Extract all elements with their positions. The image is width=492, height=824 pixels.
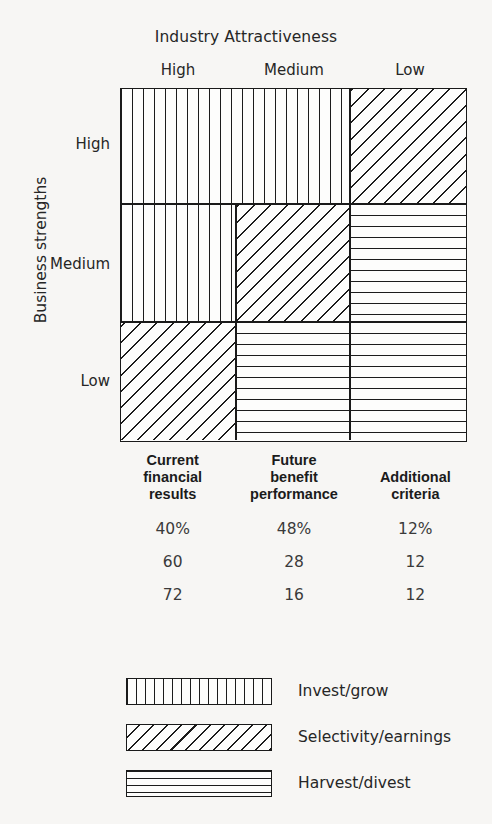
table-cell: 12%: [355, 520, 476, 538]
matrix-rule-col1: [235, 203, 237, 440]
column-header-line3: results: [116, 486, 229, 503]
legend-label: Harvest/divest: [298, 774, 411, 792]
matrix-cell-medium-medium: [236, 204, 350, 322]
row-tick-medium: Medium: [10, 255, 120, 273]
table-cell: 48%: [233, 520, 354, 538]
table-cell: 12: [355, 586, 476, 604]
table-cell: 40%: [112, 520, 233, 538]
matrix-cell-low-medium: [236, 322, 350, 440]
table-row: 72 16 12: [112, 586, 476, 604]
column-header-line1: Current: [116, 452, 229, 469]
column-header-additional-criteria: Additional criteria: [355, 452, 476, 503]
column-header-line1: Future: [237, 452, 350, 469]
table-cell: 28: [233, 553, 354, 571]
industry-attractiveness-axis-title: Industry Attractiveness: [0, 28, 492, 46]
table-cell: 72: [112, 586, 233, 604]
criteria-column-headers: Current financial results Future benefit…: [112, 452, 476, 503]
matrix-cell-high-low: [350, 89, 466, 204]
column-header-line2: benefit: [237, 469, 350, 486]
legend-swatch-diagonal-hatch-icon: [126, 724, 272, 751]
table-cell: 60: [112, 553, 233, 571]
matrix-rule-col2: [349, 89, 351, 440]
row-tick-low: Low: [10, 372, 120, 390]
column-tick-medium: Medium: [236, 61, 352, 79]
column-header-current-financial-results: Current financial results: [112, 452, 233, 503]
column-header-line2: criteria: [359, 486, 472, 503]
column-tick-high: High: [120, 61, 236, 79]
column-header-line3: performance: [237, 486, 350, 503]
legend: Invest/grow Selectivity/earnings Harvest…: [126, 668, 456, 806]
matrix-cell-high-high-medium: [121, 89, 350, 204]
row-tick-labels: High Medium Low: [0, 88, 120, 442]
table-cell: 12: [355, 553, 476, 571]
column-tick-labels: High Medium Low: [120, 61, 468, 79]
table-row: 60 28 12: [112, 553, 476, 571]
matrix-cell-medium-low: [350, 204, 466, 322]
column-header-line2: financial: [116, 469, 229, 486]
legend-label: Invest/grow: [298, 682, 389, 700]
legend-label: Selectivity/earnings: [298, 728, 451, 746]
column-header-future-benefit-performance: Future benefit performance: [233, 452, 354, 503]
legend-swatch-vertical-hatch-icon: [126, 678, 272, 705]
matrix-cell-low-low: [350, 322, 466, 440]
table-row: 40% 48% 12%: [112, 520, 476, 538]
row-tick-high: High: [10, 135, 120, 153]
column-header-line1: Additional: [359, 469, 472, 486]
matrix-rule-row1: [121, 203, 466, 205]
matrix-rule-row2: [121, 321, 466, 323]
legend-item-harvest-divest: Harvest/divest: [126, 760, 456, 806]
matrix-cell-medium-high: [121, 204, 236, 322]
column-tick-low: Low: [352, 61, 468, 79]
matrix-cell-low-high: [121, 322, 236, 440]
legend-item-selectivity-earnings: Selectivity/earnings: [126, 714, 456, 760]
legend-swatch-horizontal-hatch-icon: [126, 770, 272, 797]
table-cell: 16: [233, 586, 354, 604]
legend-item-invest-grow: Invest/grow: [126, 668, 456, 714]
ge-mckinsey-matrix: [120, 88, 467, 442]
